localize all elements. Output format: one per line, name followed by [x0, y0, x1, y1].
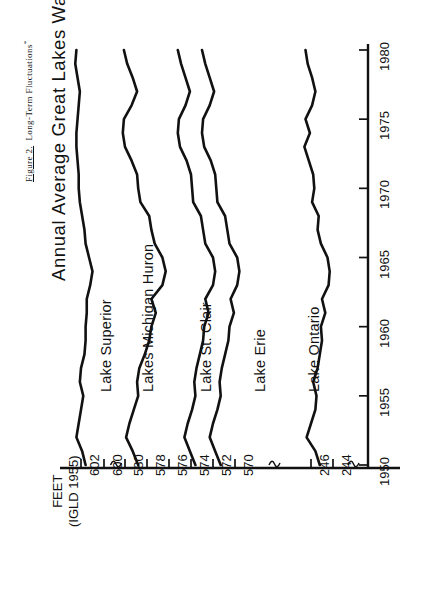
value-axis-tick-label: 600: [110, 454, 125, 476]
series-label: Lake Erie: [252, 329, 268, 392]
time-axis-tick-label: 1955: [377, 388, 392, 417]
value-axis-tick-label: 570: [241, 454, 256, 476]
time-axis-tick-label: 1965: [377, 250, 392, 279]
time-axis-tick-label: 1975: [377, 111, 392, 140]
series-group: [75, 50, 329, 465]
series-line: [202, 50, 239, 465]
value-axis-tick-label: 580: [131, 454, 146, 476]
value-axis-tick-label: 602: [87, 454, 102, 476]
series-line: [75, 50, 92, 465]
series-line: [304, 50, 329, 465]
value-axis-tick-label: 574: [197, 454, 212, 476]
series-label: Lakes Michigan Huron: [140, 244, 156, 392]
axes-group: [60, 44, 400, 468]
value-axis-tick-label: 576: [175, 454, 190, 476]
time-axis-tick-label: 1980: [377, 42, 392, 71]
time-axis-tick-label: 1960: [377, 319, 392, 348]
time-axis-tick-label: 1970: [377, 180, 392, 209]
axis-break-mark: [269, 461, 280, 467]
series-label: Lake Ontario: [306, 307, 322, 392]
value-axis-tick-label: 572: [219, 454, 234, 476]
value-axis-tick-label: 578: [153, 454, 168, 476]
series-line: [178, 50, 215, 465]
chart-area: 6026005805785765745725702462441950195519…: [0, 0, 421, 604]
series-label: Lake Superior: [98, 299, 114, 392]
series-label: Lake St. Clair: [198, 302, 214, 392]
value-axis-tick-label: 246: [317, 454, 332, 476]
value-axis-tick-label: 244: [339, 454, 354, 476]
time-axis-tick-label: 1950: [377, 457, 392, 486]
